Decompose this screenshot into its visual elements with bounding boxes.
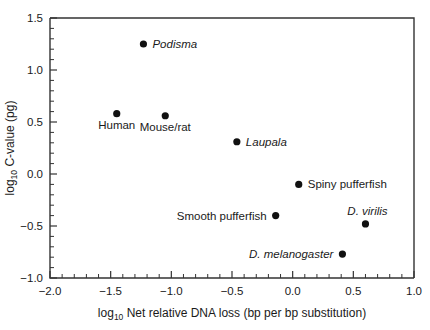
x-axis-tick-label: −0.5: [221, 285, 244, 297]
y-axis-tick-label: 0.0: [27, 168, 43, 180]
axis-spines: [50, 18, 414, 278]
x-axis-tick-label: −2.0: [39, 285, 62, 297]
data-point-label: Podisma: [152, 38, 197, 50]
x-axis-title: log10 Net relative DNA loss (bp per bp s…: [98, 306, 366, 322]
y-axis-tick-label: −1.0: [20, 272, 43, 284]
y-axis-tick-label: 1.5: [27, 12, 43, 24]
data-point-label: Human: [98, 119, 135, 131]
data-point-marker: [339, 250, 346, 257]
data-point-label: Smooth pufferfish: [177, 210, 267, 222]
data-point-marker: [233, 138, 240, 145]
x-axis-tick-label: −1.0: [160, 285, 183, 297]
x-axis-tick-label: −1.5: [99, 285, 122, 297]
data-point-marker: [113, 110, 120, 117]
y-axis-tick-label: 0.5: [27, 116, 43, 128]
data-point-marker: [140, 40, 147, 47]
y-axis-tick-label: −0.5: [20, 220, 43, 232]
plot-canvas: −2.0−1.5−1.0−0.50.00.51.0−1.0−0.50.00.51…: [0, 0, 430, 330]
x-axis-tick-label: 1.0: [406, 285, 422, 297]
data-point-marker: [362, 220, 369, 227]
data-point-label: Laupala: [246, 136, 287, 148]
data-point-marker: [295, 181, 302, 188]
data-point-label: D. melanogaster: [249, 248, 335, 260]
data-point-marker: [162, 112, 169, 119]
y-axis-tick-label: 1.0: [27, 64, 43, 76]
x-axis-tick-label: 0.5: [345, 285, 361, 297]
data-point-label: Mouse/rat: [140, 121, 192, 133]
data-point-marker: [272, 212, 279, 219]
data-point-label: D. virilis: [347, 205, 387, 217]
data-point-label: Spiny pufferfish: [308, 178, 387, 190]
x-axis-tick-label: 0.0: [285, 285, 301, 297]
scatter-plot-figure: −2.0−1.5−1.0−0.50.00.51.0−1.0−0.50.00.51…: [0, 0, 430, 330]
plot-frame-top-right: [50, 18, 414, 278]
y-axis-title: log10 C-value (pg): [3, 101, 19, 196]
